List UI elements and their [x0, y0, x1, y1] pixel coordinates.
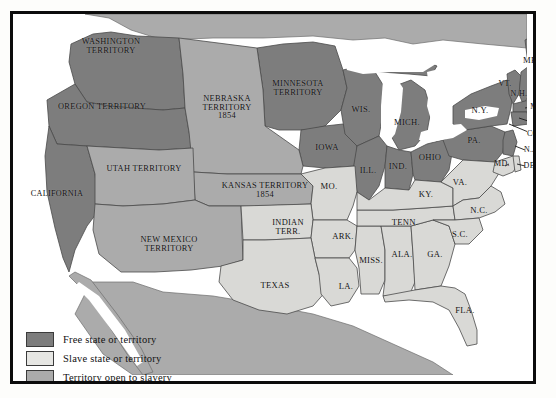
legend-label-1: Slave state or territory	[63, 353, 161, 364]
map-frame: WASHINGTON TERRITORYOREGON TERRITORYCALI…	[10, 11, 536, 384]
region-label-connecticut: CONN.	[527, 130, 536, 138]
region-alabama	[381, 226, 415, 296]
region-wisconsin	[341, 66, 385, 146]
us-map-svg	[13, 14, 527, 375]
region-label-massachusetts: MASS.	[530, 103, 536, 111]
legend-label-0: Free state or territory	[63, 334, 157, 345]
map-screenshot: WASHINGTON TERRITORYOREGON TERRITORYCALI…	[0, 0, 556, 398]
region-new-mexico-territory	[93, 200, 243, 272]
legend-swatch-1	[26, 351, 54, 366]
region-minnesota-territory	[257, 42, 347, 130]
legend-label-2: Territory open to slavery	[63, 372, 172, 383]
region-connecticut	[511, 112, 527, 126]
legend-row-0: Free state or territory	[26, 331, 172, 347]
legend-swatch-2	[26, 370, 54, 385]
map-legend: Free state or territorySlave state or te…	[26, 331, 172, 384]
region-arkansas	[311, 220, 357, 258]
legend-row-2: Territory open to slavery	[26, 369, 172, 384]
region-kansas-territory	[193, 172, 313, 206]
region-washington-territory	[69, 32, 185, 110]
legend-swatch-0	[26, 332, 54, 347]
region-utah-territory	[87, 146, 195, 206]
region-indiana	[385, 146, 413, 190]
region-indian-territory	[241, 204, 313, 240]
region-label-rhode-island: R.I.	[533, 118, 536, 126]
legend-row-1: Slave state or territory	[26, 350, 172, 366]
